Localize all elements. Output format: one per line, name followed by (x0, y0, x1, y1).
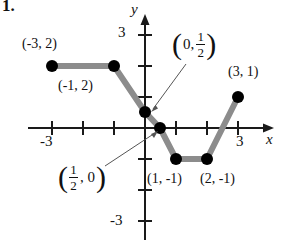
point-label-neg3-2: (-3, 2) (22, 36, 57, 52)
point-label-0-half: ( 0, 1 2 ) (172, 30, 216, 59)
point-label-neg1-2: (-1, 2) (58, 78, 93, 94)
leader-line-half-0 (105, 133, 155, 166)
x-tick-label-neg3: -3 (40, 133, 53, 150)
fraction-numerator: 1 (69, 163, 78, 176)
point-neg1-2 (108, 60, 120, 72)
problem-number: 1. (2, 0, 15, 16)
y-tick-label-pos3: 3 (118, 24, 126, 41)
leader-arrow-half-0 (151, 131, 158, 138)
paren-open: ( (58, 165, 68, 190)
leader-arrow-0-half (151, 105, 158, 112)
leader-line-0-half (153, 64, 186, 109)
paren-open: ( (172, 32, 182, 57)
paren-close: ) (206, 32, 216, 57)
y-axis-label: y (131, 1, 138, 18)
fraction-denominator: 2 (69, 179, 78, 192)
point-label-2-neg1: (2, -1) (200, 171, 235, 187)
fraction-suffix: , 0 (79, 170, 96, 185)
fraction-one-half: 1 2 (195, 30, 206, 59)
fraction-prefix: 0, (182, 37, 195, 52)
point-3-1 (232, 91, 244, 103)
point-1-neg1 (170, 153, 182, 165)
point-label-1-neg1: (1, -1) (147, 171, 182, 187)
y-axis-arrowhead (141, 14, 150, 25)
point-0-half (139, 106, 151, 118)
point-2-neg1 (201, 153, 213, 165)
point-label-half-0: ( 1 2 , 0 ) (58, 163, 106, 192)
fraction-one-half: 1 2 (68, 163, 79, 192)
fraction-numerator: 1 (197, 30, 206, 43)
x-axis-label: x (266, 131, 273, 148)
point-label-3-1: (3, 1) (228, 64, 258, 80)
point-neg3-2 (46, 60, 58, 72)
fraction-denominator: 2 (197, 46, 206, 59)
x-tick-label-pos3: 3 (236, 133, 244, 150)
paren-close: ) (96, 165, 106, 190)
y-tick-label-neg3: -3 (110, 212, 123, 229)
